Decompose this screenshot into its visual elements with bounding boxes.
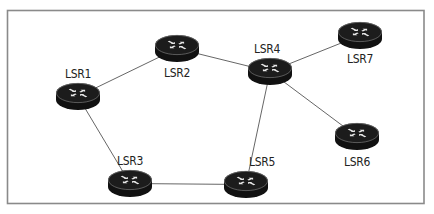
network-diagram: LSR1LSR2LSR3LSR4LSR5LSR6LSR7 xyxy=(0,0,434,214)
node-label: LSR1 xyxy=(65,67,91,81)
node-label: LSR3 xyxy=(117,154,143,168)
node-lsr4: LSR4 xyxy=(248,42,292,85)
node-label: LSR7 xyxy=(347,52,373,66)
node-lsr2: LSR2 xyxy=(155,35,199,80)
node-lsr7: LSR7 xyxy=(338,22,382,66)
node-lsr3: LSR3 xyxy=(108,154,152,197)
node-label: LSR2 xyxy=(164,66,190,80)
router-icon xyxy=(108,170,152,197)
node-lsr5: LSR5 xyxy=(224,155,275,198)
node-label: LSR5 xyxy=(249,155,275,169)
node-lsr1: LSR1 xyxy=(56,67,100,110)
router-icon xyxy=(155,35,199,62)
router-icon xyxy=(335,123,379,150)
router-icon xyxy=(56,83,100,110)
router-icon xyxy=(338,22,382,49)
link-lsr1-lsr3 xyxy=(78,97,130,184)
router-icon xyxy=(224,171,268,198)
node-label: LSR4 xyxy=(254,42,280,56)
nodes-layer: LSR1LSR2LSR3LSR4LSR5LSR6LSR7 xyxy=(56,22,382,198)
node-label: LSR6 xyxy=(344,155,370,169)
router-icon xyxy=(248,58,292,85)
node-lsr6: LSR6 xyxy=(335,123,379,169)
